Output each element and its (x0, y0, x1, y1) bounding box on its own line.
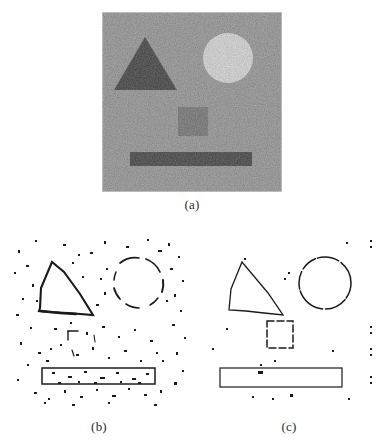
panel-a-canvas (102, 12, 282, 192)
caption-a: (a) (142, 197, 242, 213)
caption-b: (b) (49, 419, 149, 435)
panel-b-canvas (8, 232, 190, 410)
panel-c-canvas (198, 232, 380, 410)
panel-b-noisy-edge-map (8, 232, 190, 410)
panel-a-noisy-image (102, 12, 282, 192)
panel-c-clean-edge-map (198, 232, 380, 410)
figure-container: (a) (0, 0, 383, 447)
noise-overlay-fine (102, 12, 282, 192)
caption-c: (c) (239, 419, 339, 435)
